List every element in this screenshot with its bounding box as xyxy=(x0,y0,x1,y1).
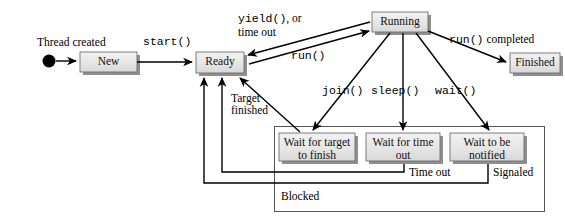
label-signaled: Signaled xyxy=(493,166,533,178)
state-wait-notify-text-line1: Wait to be xyxy=(450,136,524,149)
state-running-text: Running xyxy=(380,15,420,27)
state-wait-time-text-line1: Wait for time xyxy=(366,136,440,149)
state-wait-notify-text-line2: notified xyxy=(450,149,524,162)
initial-state-dot xyxy=(43,55,56,68)
label-wait: wait() xyxy=(435,85,476,97)
label-target-finished-line2: finished xyxy=(231,104,268,116)
label-join: join() xyxy=(322,85,363,97)
state-wait-notify-label: Wait to be notified xyxy=(450,136,524,161)
label-blocked: Blocked xyxy=(281,190,319,202)
label-wait-text: wait() xyxy=(435,84,476,97)
transition-join xyxy=(313,33,390,130)
label-blocked-text: Blocked xyxy=(281,190,319,202)
label-run-completed: run() completed xyxy=(449,30,534,47)
label-run: run() xyxy=(291,50,326,62)
state-finished-text: Finished xyxy=(515,56,555,68)
label-yield: yield(), or time out xyxy=(238,9,302,38)
label-thread-created: Thread created xyxy=(37,36,106,48)
label-target-finished: Target finished xyxy=(231,92,268,116)
transition-wait xyxy=(416,33,489,130)
label-start: start() xyxy=(143,36,191,48)
state-ready-text: Ready xyxy=(205,55,234,67)
state-finished-label: Finished xyxy=(510,56,560,69)
label-time-out-text: Time out xyxy=(409,166,450,178)
state-running-label: Running xyxy=(372,15,428,28)
state-wait-target-text-line1: Wait for target xyxy=(279,136,355,149)
thread-state-diagram: New Ready Running Finished Wait for targ… xyxy=(0,0,565,222)
label-sleep: sleep() xyxy=(371,85,419,97)
state-wait-target-text-line2: to finish xyxy=(279,149,355,162)
label-yield-or: , or xyxy=(286,12,301,24)
label-signaled-text: Signaled xyxy=(493,166,533,178)
label-time-out: Time out xyxy=(409,166,450,178)
state-ready-label: Ready xyxy=(196,55,244,68)
label-start-text: start() xyxy=(143,35,191,48)
state-wait-time-label: Wait for time out xyxy=(366,136,440,161)
state-new-label: New xyxy=(80,55,137,68)
label-run-completed-word: completed xyxy=(484,33,535,45)
label-target-finished-line1: Target xyxy=(231,92,268,104)
state-wait-target-label: Wait for target to finish xyxy=(279,136,355,161)
label-yield-call: yield() xyxy=(238,12,286,25)
label-run-text: run() xyxy=(291,49,326,62)
label-yield-timeout: time out xyxy=(238,26,302,38)
state-wait-time-text-line2: out xyxy=(366,149,440,162)
label-join-text: join() xyxy=(322,84,363,97)
label-sleep-text: sleep() xyxy=(371,84,419,97)
state-new-text: New xyxy=(98,55,120,67)
label-thread-created-text: Thread created xyxy=(37,36,106,48)
label-run-completed-call: run() xyxy=(449,33,484,46)
